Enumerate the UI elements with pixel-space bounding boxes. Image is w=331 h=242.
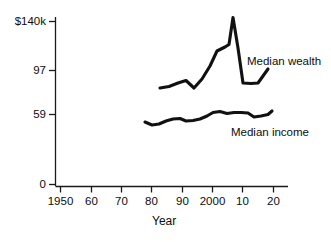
series-label-median-wealth: Median wealth — [247, 55, 321, 67]
chart-container: $140k 97 59 0 1950 60 70 80 90 2000 10 2… — [0, 0, 331, 242]
y-axis-ticks — [49, 22, 56, 185]
series-line-median-income — [145, 111, 272, 125]
y-tick-label-0: 0 — [0, 178, 46, 190]
series-label-median-income: Median income — [231, 126, 309, 138]
x-axis-ticks — [61, 187, 274, 193]
y-tick-label-97: 97 — [0, 64, 46, 76]
y-tick-label-59: 59 — [0, 108, 46, 120]
series-line-median-wealth — [160, 18, 268, 89]
y-tick-label-140k: $140k — [0, 15, 46, 27]
x-axis-title: Year — [152, 214, 176, 228]
x-tick-label-2020: 20 — [249, 195, 298, 207]
